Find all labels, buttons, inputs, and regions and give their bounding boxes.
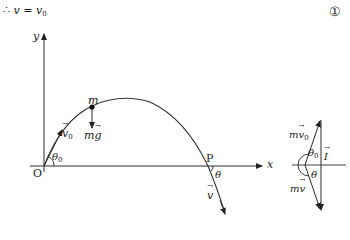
trajectory-curve [44, 98, 224, 210]
angle-theta-label: θ [215, 170, 221, 180]
angle-theta-arc [211, 166, 213, 171]
x-axis-label: x [267, 159, 273, 170]
angle-theta0-label: θ0 [52, 152, 63, 164]
final-velocity-label: v [207, 190, 213, 201]
gravity-force-label: mg [84, 130, 101, 141]
impulse-label: I [324, 152, 328, 162]
point-p-label: P [206, 153, 213, 164]
particle-mass-label: m [88, 95, 98, 106]
y-axis-label: y [33, 31, 39, 42]
angle-theta-bottom-label: θ [311, 170, 317, 180]
final-velocity-arrowhead-line [220, 200, 225, 214]
initial-velocity-label: v0 [62, 128, 73, 141]
initial-momentum-label: mv0 [289, 130, 309, 142]
origin-label: O [33, 168, 42, 179]
final-momentum-label: mv [290, 184, 305, 194]
angle-theta0-top-label: θ0 [308, 148, 319, 160]
